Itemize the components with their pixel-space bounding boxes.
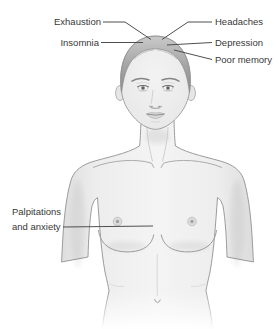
neck-shadow	[146, 128, 170, 144]
label-depression: Depression	[215, 36, 263, 50]
label-headaches: Headaches	[215, 15, 263, 29]
left-nipple	[116, 220, 119, 223]
label-poor-memory: Poor memory	[215, 53, 272, 67]
bottom-fade	[0, 290, 279, 329]
head	[116, 36, 196, 129]
right-nostril	[158, 106, 160, 108]
left-pupil	[142, 87, 144, 89]
left-nostril	[151, 106, 153, 108]
label-palpitations-anxiety: Palpitations and anxiety	[12, 204, 70, 234]
headaches-leader-line	[162, 22, 212, 40]
exhaustion-leader-line	[103, 22, 151, 40]
right-arm-shade	[230, 180, 244, 268]
left-arm-shade	[71, 180, 85, 268]
label-insomnia: Insomnia	[60, 36, 99, 50]
label-exhaustion: Exhaustion	[54, 15, 101, 29]
right-pupil	[167, 87, 169, 89]
right-nipple	[190, 220, 193, 223]
medical-symptom-diagram: Exhaustion Insomnia Headaches Depression…	[0, 0, 279, 329]
